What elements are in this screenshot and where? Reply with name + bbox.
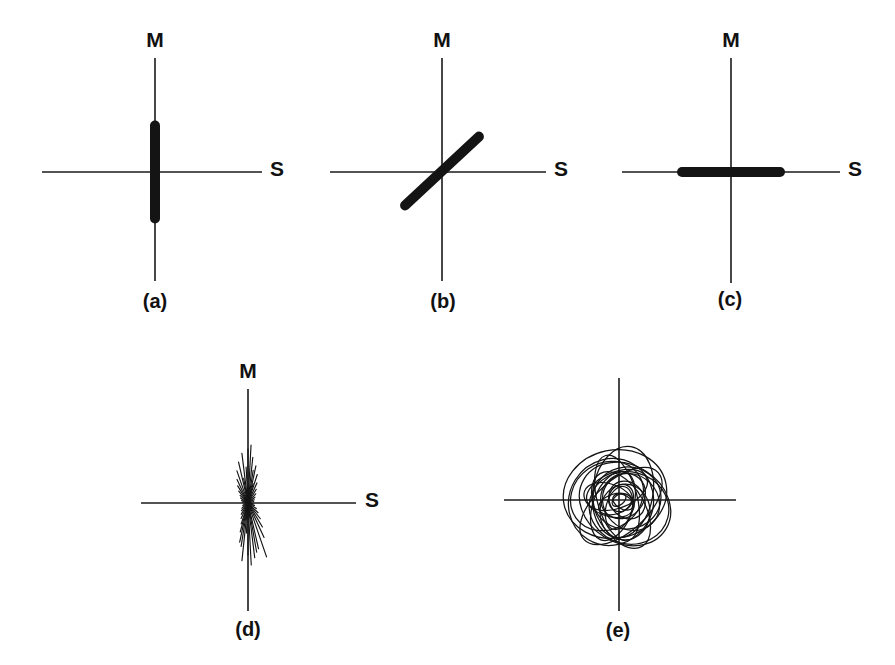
panel-label-b: (b) — [430, 290, 456, 312]
panel-label-e: (e) — [606, 619, 630, 641]
axis-label-m: M — [722, 28, 740, 51]
panel-a: MS(a) — [42, 28, 284, 313]
axis-label-s: S — [554, 157, 568, 180]
panel-label-c: (c) — [718, 288, 742, 310]
polarization-states-figure: MS(a)MS(b)MS(c)MS(d)(e) — [0, 0, 895, 665]
panel-c: MS(c) — [622, 28, 862, 311]
axis-label-m: M — [433, 28, 451, 51]
axis-label-s: S — [848, 157, 862, 180]
panel-d: MS(d) — [141, 359, 379, 641]
axis-label-m: M — [146, 28, 164, 51]
panel-label-a: (a) — [143, 290, 167, 312]
panel-e: (e) — [504, 378, 736, 641]
panel-b: MS(b) — [330, 28, 568, 313]
axis-label-s: S — [270, 157, 284, 180]
axis-label-s: S — [365, 488, 379, 511]
axis-label-m: M — [239, 359, 257, 382]
panel-label-d: (d) — [235, 618, 261, 640]
